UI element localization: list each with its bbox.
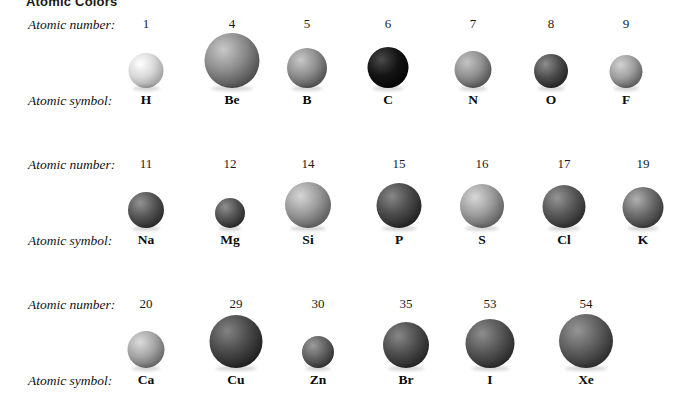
atom-sphere-ca bbox=[128, 331, 165, 368]
atomic-symbol-value: P bbox=[395, 232, 403, 248]
atomic-number-value: 54 bbox=[580, 296, 593, 312]
atomic-number-value: 14 bbox=[302, 156, 315, 172]
atom-sphere-p bbox=[377, 183, 422, 228]
atomic-number-value: 7 bbox=[470, 16, 477, 32]
atomic-symbol-value: K bbox=[638, 232, 649, 248]
atomic-symbol-value: I bbox=[487, 372, 492, 388]
atom-sphere-xe bbox=[559, 314, 613, 368]
row-label-atomic-number: Atomic number: bbox=[28, 17, 115, 33]
atomic-symbol-value: N bbox=[468, 92, 478, 108]
element-row-3: Atomic number: Atomic symbol: 20Ca29Cu30… bbox=[0, 288, 699, 411]
atom-sphere-o bbox=[534, 54, 568, 88]
atom-sphere-br bbox=[383, 322, 429, 368]
atomic-symbol-value: O bbox=[546, 92, 557, 108]
atomic-symbol-value: Na bbox=[138, 232, 155, 248]
atom-sphere-cl bbox=[543, 185, 586, 228]
atom-sphere-s bbox=[460, 184, 504, 228]
element-row-2: Atomic number: Atomic symbol: 11Na12Mg14… bbox=[0, 148, 699, 288]
atomic-symbol-value: Br bbox=[399, 372, 414, 388]
atomic-number-value: 19 bbox=[637, 156, 650, 172]
atom-sphere-n bbox=[455, 51, 492, 88]
atomic-symbol-value: Si bbox=[302, 232, 313, 248]
atom-sphere-k bbox=[623, 187, 664, 228]
atom-sphere-cu bbox=[210, 315, 263, 368]
atomic-number-value: 12 bbox=[224, 156, 237, 172]
atom-sphere-c bbox=[368, 47, 409, 88]
atomic-symbol-value: Ca bbox=[138, 372, 155, 388]
atomic-number-value: 29 bbox=[230, 296, 243, 312]
atomic-number-value: 8 bbox=[548, 16, 555, 32]
atomic-symbol-value: C bbox=[383, 92, 393, 108]
atomic-number-value: 15 bbox=[393, 156, 406, 172]
atomic-symbol-value: S bbox=[478, 232, 486, 248]
atomic-number-value: 5 bbox=[304, 16, 311, 32]
atomic-number-value: 6 bbox=[385, 16, 392, 32]
atomic-number-value: 20 bbox=[140, 296, 153, 312]
atomic-symbol-value: Be bbox=[225, 92, 240, 108]
atom-sphere-h bbox=[129, 53, 164, 88]
row-label-atomic-symbol: Atomic symbol: bbox=[28, 233, 112, 249]
atom-sphere-mg bbox=[215, 198, 245, 228]
row-label-atomic-number: Atomic number: bbox=[28, 157, 115, 173]
atomic-number-value: 53 bbox=[484, 296, 497, 312]
atom-sphere-be bbox=[205, 33, 260, 88]
atomic-number-value: 4 bbox=[229, 16, 236, 32]
atomic-number-value: 9 bbox=[623, 16, 630, 32]
atomic-symbol-value: B bbox=[302, 92, 311, 108]
atomic-number-value: 30 bbox=[312, 296, 325, 312]
atom-sphere-na bbox=[128, 192, 164, 228]
atomic-number-value: 16 bbox=[476, 156, 489, 172]
atomic-symbol-value: H bbox=[141, 92, 152, 108]
row-label-atomic-symbol: Atomic symbol: bbox=[28, 373, 112, 389]
atom-sphere-si bbox=[285, 182, 331, 228]
row-label-atomic-number: Atomic number: bbox=[28, 297, 115, 313]
atomic-symbol-value: F bbox=[622, 92, 630, 108]
atomic-symbol-value: Cu bbox=[227, 372, 244, 388]
atomic-symbol-value: Xe bbox=[578, 372, 594, 388]
atom-sphere-f bbox=[610, 55, 643, 88]
row-label-atomic-symbol: Atomic symbol: bbox=[28, 93, 112, 109]
atomic-number-value: 35 bbox=[400, 296, 413, 312]
atomic-symbol-value: Mg bbox=[220, 232, 240, 248]
atom-sphere-i bbox=[466, 319, 515, 368]
atomic-symbol-value: Cl bbox=[557, 232, 571, 248]
atomic-colors-figure: Atomic Colors Atomic number: Atomic symb… bbox=[0, 0, 699, 411]
atomic-number-value: 11 bbox=[140, 156, 153, 172]
atom-sphere-zn bbox=[302, 336, 334, 368]
atomic-number-value: 17 bbox=[558, 156, 571, 172]
atomic-number-value: 1 bbox=[143, 16, 150, 32]
atomic-symbol-value: Zn bbox=[310, 372, 327, 388]
element-row-1: Atomic number: Atomic symbol: 1H4Be5B6C7… bbox=[0, 8, 699, 148]
atom-sphere-b bbox=[287, 48, 327, 88]
